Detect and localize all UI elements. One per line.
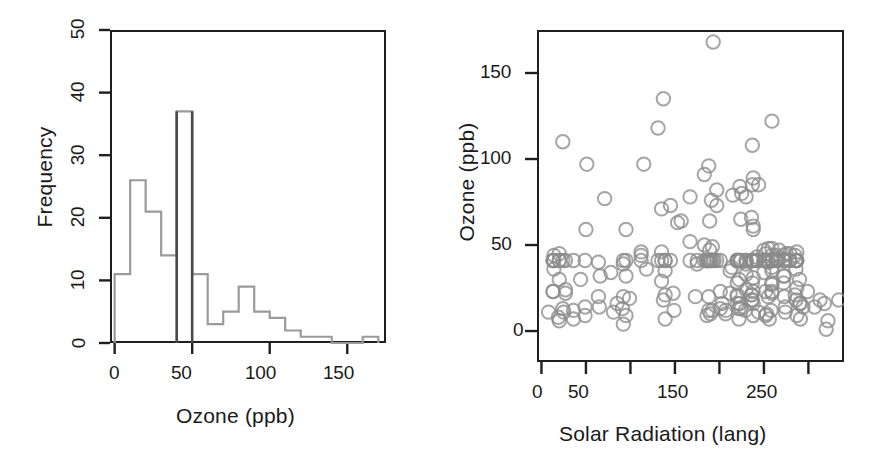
hist-xtick-150: 150 <box>323 362 354 384</box>
scat-ytick-0: 0 <box>513 319 523 341</box>
scat-ytick-150: 150 <box>480 61 511 83</box>
histogram-panel: 0 10 20 30 40 50 0 50 100 150 Frequency … <box>0 0 441 463</box>
scat-xtick-150: 150 <box>657 381 688 403</box>
scat-ytick-100: 100 <box>480 147 511 169</box>
scat-xtick-250: 250 <box>746 381 777 403</box>
scat-y-axis-title: Ozone (ppb) <box>455 112 479 252</box>
scat-x-axis-title: Solar Radiation (lang) <box>559 422 767 446</box>
hist-xtick-50: 50 <box>171 362 192 384</box>
hist-ytick-10: 10 <box>67 270 89 291</box>
hist-xtick-0: 0 <box>109 362 119 384</box>
hist-ytick-40: 40 <box>67 82 89 103</box>
hist-ytick-20: 20 <box>67 207 89 228</box>
hist-y-axis-title: Frequency <box>33 117 57 237</box>
hist-ytick-30: 30 <box>67 145 89 166</box>
figure-root: 0 10 20 30 40 50 0 50 100 150 Frequency … <box>0 0 882 463</box>
scatter-panel: 0 50 100 150 0 50 150 250 Ozone (ppb) So… <box>441 0 882 463</box>
hist-ytick-0: 0 <box>68 338 90 348</box>
scat-xtick-50: 50 <box>568 381 589 403</box>
hist-ytick-50: 50 <box>67 19 89 40</box>
scatter-plot-area <box>537 30 844 362</box>
histogram-plot-area <box>110 30 386 343</box>
hist-xtick-100: 100 <box>245 362 276 384</box>
scat-ytick-50: 50 <box>491 233 512 255</box>
hist-x-axis-title: Ozone (ppb) <box>176 404 295 428</box>
scat-xtick-0: 0 <box>532 381 542 403</box>
